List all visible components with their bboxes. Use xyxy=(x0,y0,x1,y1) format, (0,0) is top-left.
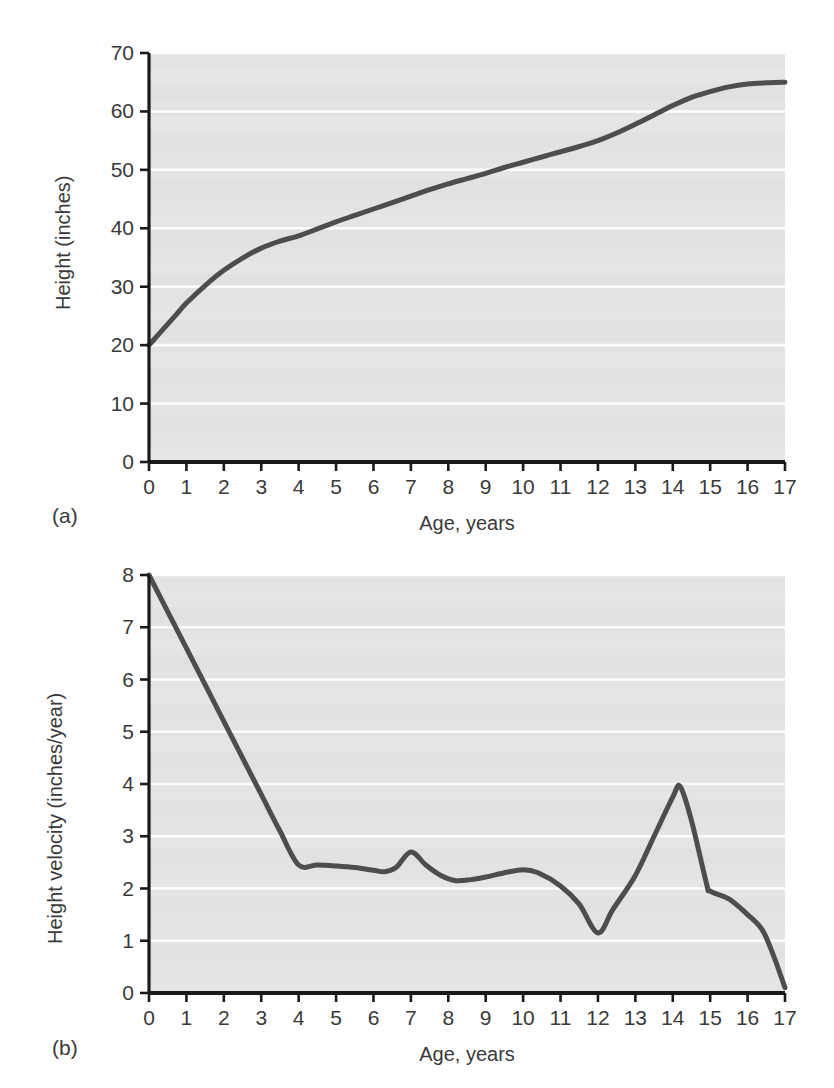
x-axis-tick-label: 11 xyxy=(541,476,581,497)
x-axis-tick-label: 14 xyxy=(653,1007,693,1028)
x-axis-tick-label: 12 xyxy=(578,1007,618,1028)
y-axis-tick-label: 3 xyxy=(88,825,134,846)
x-axis-tick-label: 9 xyxy=(466,1007,506,1028)
y-axis-tick-label: 6 xyxy=(88,669,134,690)
x-axis-tick-label: 5 xyxy=(316,1007,356,1028)
y-axis-tick-label: 70 xyxy=(88,42,134,63)
x-axis-tick-label: 5 xyxy=(316,476,356,497)
y-axis-tick-label: 8 xyxy=(88,564,134,585)
x-axis-tick-label: 1 xyxy=(166,476,206,497)
x-axis-tick-label: 1 xyxy=(166,1007,206,1028)
y-axis-title: Height (inches) xyxy=(52,175,75,310)
x-axis-tick-label: 0 xyxy=(129,476,169,497)
x-axis-tick-label: 13 xyxy=(615,476,655,497)
y-axis-tick-label: 5 xyxy=(88,721,134,742)
x-axis-tick-label: 7 xyxy=(391,476,431,497)
panel-label-a: (a) xyxy=(52,504,78,528)
x-axis-tick-label: 17 xyxy=(765,476,805,497)
x-axis-tick-label: 10 xyxy=(503,476,543,497)
y-axis-tick-label: 0 xyxy=(88,982,134,1003)
x-axis-tick-label: 2 xyxy=(204,1007,244,1028)
x-axis-tick-label: 0 xyxy=(129,1007,169,1028)
x-axis-tick-label: 16 xyxy=(728,476,768,497)
y-axis-tick-label: 50 xyxy=(88,159,134,180)
figure-panel-a: 0102030405060700123456789101112131415161… xyxy=(0,0,834,544)
y-axis-tick-label: 1 xyxy=(88,930,134,951)
x-axis-title: Age, years xyxy=(337,1043,597,1066)
y-axis-tick-label: 20 xyxy=(88,334,134,355)
y-axis-tick-label: 30 xyxy=(88,276,134,297)
y-axis-tick-label: 60 xyxy=(88,100,134,121)
x-axis-tick-label: 12 xyxy=(578,476,618,497)
x-axis-tick-label: 16 xyxy=(728,1007,768,1028)
x-axis-tick-label: 6 xyxy=(353,476,393,497)
x-axis-tick-label: 8 xyxy=(428,476,468,497)
x-axis-tick-label: 7 xyxy=(391,1007,431,1028)
x-axis-tick-label: 4 xyxy=(279,476,319,497)
y-axis-tick-label: 7 xyxy=(88,616,134,637)
figure-panel-b: 01234567801234567891011121314151617Age, … xyxy=(0,544,834,1088)
y-axis-title: Height velocity (inches/year) xyxy=(44,693,67,944)
y-axis-tick-label: 40 xyxy=(88,217,134,238)
plot-area-a: 0102030405060700123456789101112131415161… xyxy=(0,0,834,544)
x-axis-tick-label: 3 xyxy=(241,476,281,497)
plot-area-b: 01234567801234567891011121314151617Age, … xyxy=(0,544,834,1088)
x-axis-tick-label: 15 xyxy=(690,476,730,497)
x-axis-tick-label: 9 xyxy=(466,476,506,497)
x-axis-title: Age, years xyxy=(337,512,597,535)
x-axis-tick-label: 13 xyxy=(615,1007,655,1028)
y-axis-tick-label: 2 xyxy=(88,878,134,899)
x-axis-tick-label: 4 xyxy=(279,1007,319,1028)
x-axis-tick-label: 15 xyxy=(690,1007,730,1028)
x-axis-tick-label: 14 xyxy=(653,476,693,497)
panel-label-b: (b) xyxy=(52,1036,78,1060)
x-axis-tick-label: 3 xyxy=(241,1007,281,1028)
x-axis-tick-label: 2 xyxy=(204,476,244,497)
x-axis-tick-label: 17 xyxy=(765,1007,805,1028)
x-axis-tick-label: 10 xyxy=(503,1007,543,1028)
x-axis-tick-label: 8 xyxy=(428,1007,468,1028)
x-axis-tick-label: 6 xyxy=(353,1007,393,1028)
x-axis-tick-label: 11 xyxy=(541,1007,581,1028)
y-axis-tick-label: 10 xyxy=(88,393,134,414)
y-axis-tick-label: 0 xyxy=(88,451,134,472)
y-axis-tick-label: 4 xyxy=(88,773,134,794)
